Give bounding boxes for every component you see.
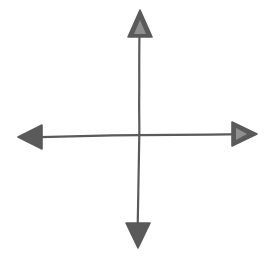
coordinate-axes-diagram: [0, 0, 272, 260]
diagram-canvas: Coordinate axes: [0, 0, 272, 260]
